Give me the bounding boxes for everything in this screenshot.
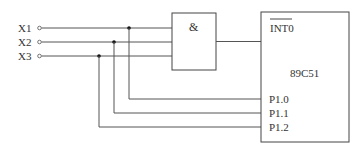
terminal-x2-icon (38, 40, 42, 44)
and-gate-symbol: & (189, 20, 199, 34)
chip-name: 89C51 (290, 67, 319, 79)
input-label-x2: X2 (18, 36, 31, 48)
chip-pin-int0: INT0 (270, 22, 294, 34)
circuit-diagram: X1 X2 X3 & INT0 89C51 P1.0 P1.1 P1.2 (0, 0, 361, 149)
input-label-x1: X1 (18, 22, 31, 34)
chip-pin-p11: P1.1 (269, 107, 289, 119)
chip-pin-p12: P1.2 (269, 121, 289, 133)
terminal-x3-icon (38, 54, 42, 58)
terminal-x1-icon (38, 26, 42, 30)
input-label-x3: X3 (18, 50, 32, 62)
chip-pin-p10: P1.0 (269, 93, 289, 105)
